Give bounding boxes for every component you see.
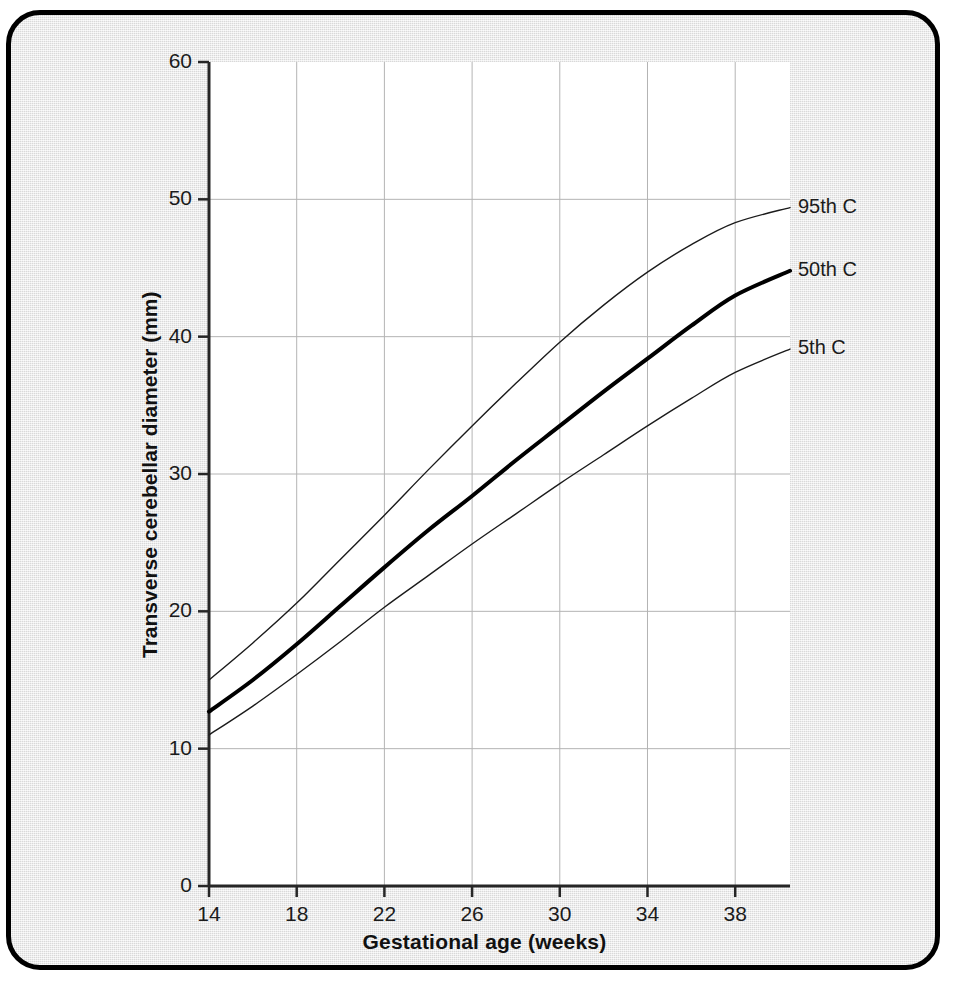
x-tick-label: 34 <box>617 902 677 926</box>
series-curve-95th-c <box>209 208 790 680</box>
y-tick-label: 10 <box>132 736 192 760</box>
y-tick-label: 0 <box>132 873 192 897</box>
series-label-95th-c: 95th C <box>798 195 857 218</box>
series-curve-5th-c <box>209 349 790 735</box>
x-tick-label: 26 <box>442 902 502 926</box>
figure-root: 010203040506014182226303438 95th C50th C… <box>0 0 969 1001</box>
x-tick-label: 22 <box>354 902 414 926</box>
x-tick-label: 38 <box>705 902 765 926</box>
x-tick-label: 18 <box>267 902 327 926</box>
y-axis-title: Transverse cerebellar diameter (mm) <box>138 291 162 658</box>
series-label-50th-c: 50th C <box>798 258 857 281</box>
y-tick-label: 50 <box>132 186 192 210</box>
series-label-5th-c: 5th C <box>798 336 846 359</box>
x-tick-label: 30 <box>530 902 590 926</box>
x-tick-label: 14 <box>179 902 239 926</box>
tick-marks-group <box>198 62 735 897</box>
y-tick-label: 60 <box>132 49 192 73</box>
x-axis-title: Gestational age (weeks) <box>0 930 969 954</box>
series-curves-group <box>209 208 790 735</box>
